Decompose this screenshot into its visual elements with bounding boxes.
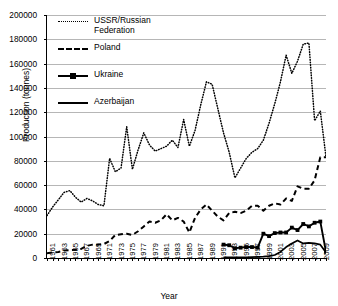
- x-tick-label: 1991: [220, 243, 228, 260]
- data-point-marker: [307, 225, 311, 229]
- legend-item[interactable]: Ukraine: [58, 70, 188, 97]
- x-tick-label: 1983: [174, 243, 182, 260]
- data-point-marker: [318, 220, 322, 224]
- data-point-marker: [273, 231, 277, 235]
- legend-label: Poland: [94, 43, 120, 53]
- x-tick-label: 1985: [186, 243, 194, 260]
- data-point-marker: [313, 221, 317, 225]
- series-line: [47, 157, 326, 253]
- x-tick-label: 1963: [61, 243, 69, 260]
- x-tick-label: 1987: [197, 243, 205, 260]
- x-tick-label: 1981: [163, 243, 171, 260]
- legend-swatch-icon: [58, 17, 88, 27]
- data-point-marker: [284, 231, 288, 235]
- legend-item[interactable]: Poland: [58, 43, 188, 70]
- data-point-marker: [261, 232, 265, 236]
- x-tick-label: 1995: [243, 243, 251, 260]
- y-axis-title: Production (tonnes): [21, 25, 31, 185]
- data-point-marker: [267, 234, 271, 238]
- x-tick-label: 1975: [129, 243, 137, 260]
- y-tick-label: 0: [0, 254, 43, 262]
- x-tick-label: 1979: [152, 243, 160, 260]
- legend-item[interactable]: USSR/Russian Federation: [58, 16, 188, 43]
- chart-legend: USSR/Russian FederationPolandUkraineAzer…: [58, 16, 188, 124]
- data-point-marker: [290, 226, 294, 230]
- x-tick-label: 1997: [254, 243, 262, 260]
- legend-item[interactable]: Azerbaijan: [58, 97, 188, 124]
- x-tick-label: 2001: [277, 243, 285, 260]
- x-tick-label: 2003: [288, 243, 296, 260]
- data-point-marker: [296, 228, 300, 232]
- x-tick-label: 1999: [266, 243, 274, 260]
- data-point-marker: [279, 231, 283, 235]
- legend-label: Ukraine: [94, 70, 123, 80]
- x-tick-label: 1977: [140, 243, 148, 260]
- x-tick-label: 1969: [95, 243, 103, 260]
- production-line-chart: 2000001800001600001400001200001000008000…: [0, 0, 338, 306]
- x-tick-label: 1965: [72, 243, 80, 260]
- x-tick-label: 2007: [311, 243, 319, 260]
- x-tick-label: 1967: [83, 243, 91, 260]
- x-axis-title: Year: [0, 291, 338, 301]
- y-tick-label: 200000: [0, 11, 43, 19]
- x-tick-label: 1993: [231, 243, 239, 260]
- y-tick-label: 40000: [0, 205, 43, 213]
- legend-swatch-icon: [58, 98, 88, 108]
- legend-label: USSR/Russian Federation: [94, 16, 151, 35]
- data-point-marker: [301, 222, 305, 226]
- y-tick-label: 20000: [0, 230, 43, 238]
- x-axis-tick-labels: 1961196319651967196919711973197519771979…: [46, 260, 325, 290]
- legend-label: Azerbaijan: [94, 97, 134, 107]
- x-tick-label: 1971: [106, 243, 114, 260]
- legend-swatch-icon: [58, 71, 88, 81]
- series-poland: [47, 157, 326, 253]
- x-tick-label: 1961: [49, 243, 57, 260]
- legend-marker-icon: [70, 73, 76, 79]
- x-tick-label: 2005: [300, 243, 308, 260]
- x-tick-label: 1973: [118, 243, 126, 260]
- legend-swatch-icon: [58, 44, 88, 54]
- x-tick-label: 2009: [323, 243, 331, 260]
- x-tick-label: 1989: [209, 243, 217, 260]
